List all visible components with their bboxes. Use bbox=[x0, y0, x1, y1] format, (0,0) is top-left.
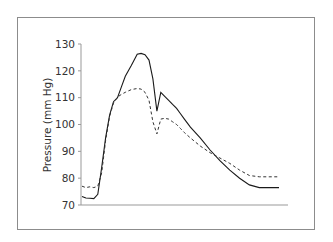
y-tick-label: 130 bbox=[55, 38, 75, 50]
y-tick-label: 110 bbox=[55, 91, 75, 103]
y-tick-label: 100 bbox=[55, 118, 75, 130]
y-tick-label: 90 bbox=[62, 145, 75, 157]
y-tick-label: 120 bbox=[55, 65, 75, 77]
line-chart: 708090100110120130 Pressure (mm Hg) bbox=[0, 0, 333, 242]
y-axis-title: Pressure (mm Hg) bbox=[41, 78, 53, 173]
y-axis: 708090100110120130 bbox=[55, 38, 81, 211]
y-tick-label: 80 bbox=[62, 172, 75, 184]
dashed-pressure-line bbox=[82, 89, 279, 188]
y-tick-label: 70 bbox=[62, 199, 75, 211]
solid-pressure-line bbox=[82, 53, 279, 198]
